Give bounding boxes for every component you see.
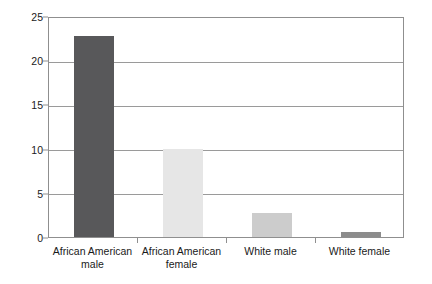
y-axis-tick-label: 25 — [13, 12, 43, 23]
bar — [163, 149, 203, 237]
bar — [341, 232, 381, 237]
bar — [252, 213, 292, 237]
plot-area — [48, 17, 404, 238]
x-axis-tick-mark — [137, 238, 138, 243]
x-axis-category-label: African Americanfemale — [130, 245, 233, 270]
bar-chart: 0510152025 African AmericanmaleAfrican A… — [0, 0, 432, 284]
y-axis-tick-label: 20 — [13, 56, 43, 67]
y-axis-tick-label: 5 — [13, 189, 43, 200]
y-axis-tick-label: 15 — [13, 100, 43, 111]
bar — [74, 36, 114, 237]
x-axis-tick-mark — [226, 238, 227, 243]
x-axis-category-label-line: White male — [219, 245, 322, 258]
x-axis-tick-mark — [315, 238, 316, 243]
x-axis-category-label-line: African American — [41, 245, 144, 258]
y-axis-tick-label: 0 — [13, 233, 43, 244]
x-axis-category-label-line: male — [41, 258, 144, 271]
x-axis-category-label-line: female — [130, 258, 233, 271]
x-axis-category-label: White male — [219, 245, 322, 258]
x-axis-category-label: African Americanmale — [41, 245, 144, 270]
y-axis-tick-label: 10 — [13, 144, 43, 155]
x-axis-category-label-line: White female — [308, 245, 411, 258]
x-axis-category-label-line: African American — [130, 245, 233, 258]
x-axis-category-label: White female — [308, 245, 411, 258]
